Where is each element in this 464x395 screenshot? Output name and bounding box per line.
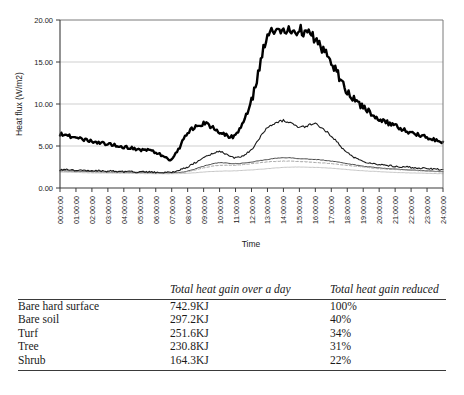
- heat-gain-table: Total heat gain over a day Total heat ga…: [18, 283, 446, 370]
- cell-total-heat-gain: 164.3KJ: [170, 354, 330, 370]
- x-tick-label: 06:00:00: [152, 196, 161, 224]
- cell-heat-gain-reduced: 34%: [330, 327, 446, 341]
- heat-flux-figure: 0.005.0010.0015.0020.00 00:00:0001:00:00…: [0, 0, 464, 395]
- x-axis-ticks: 00:00:0001:00:0002:00:0003:00:0004:00:00…: [56, 188, 448, 224]
- cell-total-heat-gain: 742.9KJ: [170, 299, 330, 313]
- cell-heat-gain-reduced: 31%: [330, 340, 446, 354]
- x-tick-label: 05:00:00: [136, 196, 145, 224]
- cell-total-heat-gain: 297.2KJ: [170, 313, 330, 327]
- y-tick-label: 20.00: [34, 16, 53, 25]
- cell-category: Tree: [18, 340, 170, 354]
- x-tick-label: 13:00:00: [263, 196, 272, 224]
- x-tick-label: 20:00:00: [375, 196, 384, 224]
- x-tick-label: 24:00:00: [439, 196, 448, 224]
- table-row: Shrub164.3KJ22%: [18, 354, 446, 370]
- cell-heat-gain-reduced: 40%: [330, 313, 446, 327]
- chart-container: 0.005.0010.0015.0020.00 00:00:0001:00:00…: [0, 0, 464, 252]
- x-tick-label: 12:00:00: [248, 196, 257, 224]
- cell-category: Turf: [18, 327, 170, 341]
- col-header-category: [18, 283, 170, 299]
- y-tick-label: 0.00: [38, 184, 53, 193]
- col-header-heat-gain-reduced: Total heat gain reduced: [330, 283, 446, 299]
- table-bottom-rule: [18, 370, 446, 371]
- x-tick-label: 15:00:00: [295, 196, 304, 224]
- x-tick-label: 01:00:00: [72, 196, 81, 224]
- y-axis-ticks: 0.005.0010.0015.0020.00: [34, 16, 60, 193]
- table-row: Bare hard surface742.9KJ100%: [18, 299, 446, 313]
- table-row: Tree230.8KJ31%: [18, 340, 446, 354]
- table-row: Bare soil297.2KJ40%: [18, 313, 446, 327]
- x-tick-label: 00:00:00: [56, 196, 65, 224]
- cell-category: Bare soil: [18, 313, 170, 327]
- x-axis-title: Time: [242, 239, 261, 249]
- table-body: Bare hard surface742.9KJ100%Bare soil297…: [18, 299, 446, 369]
- x-tick-label: 10:00:00: [216, 196, 225, 224]
- x-tick-label: 17:00:00: [327, 196, 336, 224]
- x-tick-label: 11:00:00: [232, 196, 241, 223]
- x-tick-label: 09:00:00: [200, 196, 209, 224]
- table-row: Turf251.6KJ34%: [18, 327, 446, 341]
- x-tick-label: 22:00:00: [407, 196, 416, 224]
- x-tick-label: 21:00:00: [391, 196, 400, 224]
- y-axis-title: Heat flux (W/m2): [14, 72, 24, 136]
- x-tick-label: 02:00:00: [88, 196, 97, 224]
- y-tick-label: 5.00: [38, 142, 53, 151]
- x-tick-label: 14:00:00: [279, 196, 288, 224]
- cell-heat-gain-reduced: 22%: [330, 354, 446, 370]
- cell-category: Bare hard surface: [18, 299, 170, 313]
- col-header-total-heat-gain: Total heat gain over a day: [170, 283, 330, 299]
- x-tick-label: 03:00:00: [104, 196, 113, 224]
- y-tick-label: 10.00: [34, 100, 53, 109]
- cell-category: Shrub: [18, 354, 170, 370]
- x-tick-label: 16:00:00: [311, 196, 320, 224]
- table-header: Total heat gain over a day Total heat ga…: [18, 283, 446, 299]
- x-tick-label: 19:00:00: [359, 196, 368, 224]
- y-tick-label: 15.00: [34, 58, 53, 67]
- cell-heat-gain-reduced: 100%: [330, 299, 446, 313]
- x-tick-label: 18:00:00: [343, 196, 352, 224]
- heat-flux-line-chart: 0.005.0010.0015.0020.00 00:00:0001:00:00…: [0, 0, 464, 252]
- table-header-row: Total heat gain over a day Total heat ga…: [18, 283, 446, 299]
- x-tick-label: 04:00:00: [120, 196, 129, 224]
- cell-total-heat-gain: 230.8KJ: [170, 340, 330, 354]
- x-tick-label: 07:00:00: [168, 196, 177, 224]
- x-tick-label: 08:00:00: [184, 196, 193, 224]
- x-tick-label: 23:00:00: [423, 196, 432, 224]
- heat-gain-table-block: Total heat gain over a day Total heat ga…: [18, 283, 446, 371]
- cell-total-heat-gain: 251.6KJ: [170, 327, 330, 341]
